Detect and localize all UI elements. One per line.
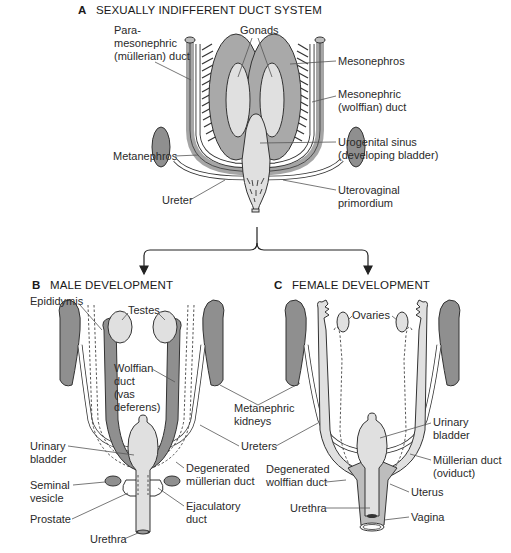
label-degenerated-mullerian: Degenerated müllerian duct <box>186 462 254 487</box>
urinary-bladder-male <box>128 415 158 532</box>
panel-b: B MALE DEVELOPMENT Epididymis <box>30 279 254 545</box>
label-epididymis: Epididymis <box>30 295 84 307</box>
label-urogenital-sinus: Urogenital sinus (developing bladder) <box>338 136 438 161</box>
duct-system-diagram: A SEXUALLY INDIFFERENT DUCT SYSTEM <box>0 0 511 553</box>
label-urethra-female: Urethra <box>290 502 328 514</box>
panel-a: A SEXUALLY INDIFFERENT DUCT SYSTEM <box>78 4 438 212</box>
panel-a-title: SEXUALLY INDIFFERENT DUCT SYSTEM <box>96 4 322 16</box>
seminal-vesicle-left <box>105 476 121 486</box>
label-ureter: Ureter <box>162 194 193 206</box>
panel-a-letter: A <box>78 4 86 16</box>
label-vagina: Vagina <box>411 511 445 523</box>
diagram-root: A SEXUALLY INDIFFERENT DUCT SYSTEM <box>0 0 511 553</box>
label-paramesonephric: Para- mesonephric (müllerian) duct <box>114 24 190 62</box>
label-testes: Testes <box>128 304 160 316</box>
label-mesonephros: Mesonephros <box>338 55 405 67</box>
label-uterus: Uterus <box>411 486 444 498</box>
urethra-opening-female <box>367 514 377 518</box>
panel-b-letter: B <box>32 279 40 291</box>
panel-c-letter: C <box>274 279 282 291</box>
metanephric-kidney-left-male <box>59 300 80 386</box>
label-gonads: Gonads <box>240 24 279 36</box>
label-mullerian-duct: Müllerian duct (oviduct) <box>433 454 505 479</box>
label-ejaculatory-duct: Ejaculatory duct <box>186 500 243 525</box>
metanephric-kidney-left-female <box>285 300 306 386</box>
ureter-right-female <box>380 345 439 452</box>
panel-c-title: FEMALE DEVELOPMENT <box>292 279 430 291</box>
panel-b-title: MALE DEVELOPMENT <box>50 279 173 291</box>
metanephric-kidney-right-male <box>203 300 224 386</box>
branch-arrows <box>140 227 372 274</box>
label-urethra-male: Urethra <box>90 533 128 545</box>
ovary-right <box>396 312 408 332</box>
label-degenerated-wolffian: Degenerated wolffian duct <box>265 463 333 488</box>
label-seminal-vesicle: Seminal vesicle <box>30 479 73 504</box>
label-prostate: Prostate <box>30 513 71 525</box>
ureter-left-female <box>306 345 365 452</box>
label-metanephric-kidneys: Metanephric kidneys <box>234 402 298 427</box>
seminal-vesicle-right <box>164 476 180 486</box>
gonad-left <box>226 63 250 137</box>
panel-c: C FEMALE DEVELOPMENT Ovaries Urinary <box>265 279 505 531</box>
label-urinary-bladder-male: Urinary bladder <box>30 440 69 465</box>
label-ovaries: Ovaries <box>352 309 390 321</box>
label-ureters: Ureters <box>241 440 278 452</box>
shared-labels: Metanephric kidneys Ureters <box>200 383 318 452</box>
metanephric-kidney-right-female <box>439 300 460 386</box>
label-urinary-bladder-female: Urinary bladder <box>433 416 472 441</box>
label-metanephros: Metanephros <box>113 150 178 162</box>
label-mesonephric-duct: Mesonephric (wolffian) duct <box>338 88 406 113</box>
ovary-left <box>337 312 349 332</box>
label-uterovaginal: Uterovaginal primordium <box>338 184 403 209</box>
